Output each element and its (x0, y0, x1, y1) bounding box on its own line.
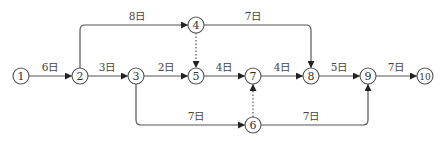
arrow-network-diagram: 6日 3日 8日 2日 7日 7日 4日 7日 4日 5日 (0, 0, 445, 141)
edge-5-7: 4日 (204, 61, 245, 76)
edge-4-8: 7日 (204, 10, 311, 68)
edge-label-7-8: 4日 (274, 61, 291, 73)
node-label: 3 (133, 70, 140, 83)
edge-1-2: 6日 (29, 61, 72, 76)
edge-label-2-3: 3日 (99, 61, 116, 73)
edge-label-6-9: 7日 (303, 110, 320, 122)
node-label: 1 (18, 70, 25, 83)
edge-label-8-9: 5日 (331, 61, 348, 73)
node-5: 5 (188, 68, 204, 84)
node-label: 10 (419, 72, 431, 82)
node-10: 10 (417, 68, 433, 84)
edge-label-2-4: 8日 (129, 10, 146, 22)
node-label: 5 (193, 70, 200, 83)
edge-label-3-5: 2日 (158, 61, 175, 73)
node-8: 8 (303, 68, 319, 84)
node-label: 9 (365, 70, 372, 83)
node-9: 9 (360, 68, 376, 84)
node-6: 6 (245, 117, 261, 133)
node-label: 7 (250, 70, 257, 83)
edge-9-10: 7日 (376, 61, 417, 76)
node-label: 2 (77, 70, 84, 83)
node-4: 4 (188, 17, 204, 33)
edge-label-9-10: 7日 (388, 61, 405, 73)
edge-3-6: 7日 (136, 84, 245, 125)
node-2: 2 (72, 68, 88, 84)
node-7: 7 (245, 68, 261, 84)
edge-7-8: 4日 (261, 61, 303, 76)
edge-label-5-7: 4日 (216, 61, 233, 73)
edge-2-4: 8日 (80, 10, 188, 68)
node-1: 1 (13, 68, 29, 84)
edge-6-9: 7日 (261, 84, 368, 125)
node-3: 3 (128, 68, 144, 84)
edge-2-3: 3日 (88, 61, 128, 76)
node-label: 4 (193, 19, 200, 32)
node-label: 8 (308, 70, 315, 83)
edge-label-3-6: 7日 (188, 110, 205, 122)
edge-label-1-2: 6日 (42, 61, 59, 73)
edge-8-9: 5日 (319, 61, 360, 76)
edge-3-5: 2日 (144, 61, 188, 76)
node-label: 6 (250, 119, 257, 132)
edge-label-4-8: 7日 (245, 10, 262, 22)
